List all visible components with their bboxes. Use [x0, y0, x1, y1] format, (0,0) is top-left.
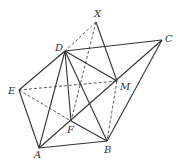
edge-XM	[96, 22, 117, 81]
edge-DA	[39, 51, 65, 148]
edge-EF	[19, 90, 71, 121]
label-point-F: F	[66, 124, 75, 135]
edge-DM	[65, 51, 117, 81]
label-point-X: X	[93, 8, 102, 19]
edge-CB	[107, 40, 162, 141]
label-point-B: B	[103, 144, 111, 155]
edge-DC	[65, 40, 162, 51]
label-point-D: D	[54, 42, 63, 53]
geometry-diagram: XDCEMFAB	[0, 0, 179, 166]
edge-FB	[71, 121, 107, 141]
label-point-E: E	[7, 85, 16, 96]
label-point-C: C	[165, 33, 173, 44]
solid-edges	[19, 22, 162, 148]
point-labels: XDCEMFAB	[7, 8, 173, 160]
edge-XD	[65, 22, 96, 51]
edge-AC	[39, 40, 162, 148]
label-point-A: A	[33, 149, 41, 160]
edge-AE	[19, 90, 39, 148]
edge-ED	[19, 51, 65, 90]
label-point-M: M	[119, 81, 131, 92]
edge-BA	[39, 141, 107, 148]
